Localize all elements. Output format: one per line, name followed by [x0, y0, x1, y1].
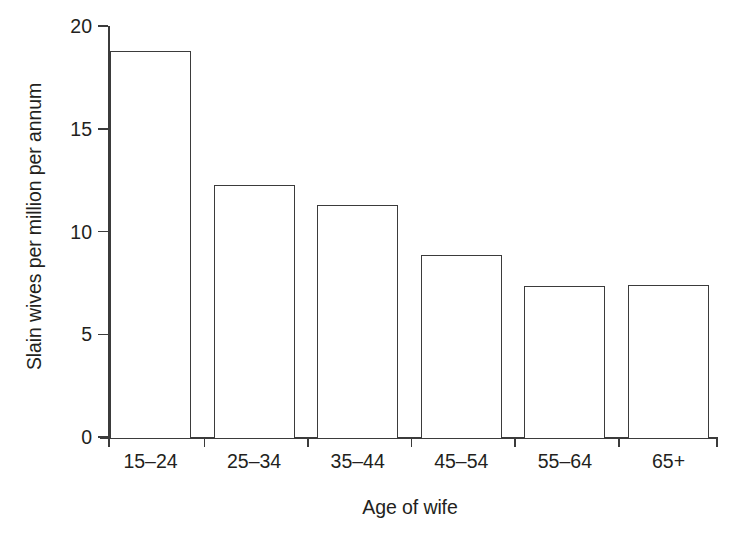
y-axis-tick-mark [98, 231, 108, 233]
y-axis-tick-label: 10 [48, 220, 92, 243]
x-axis-category-label: 55–64 [538, 450, 592, 473]
x-axis-tick-mark [204, 437, 206, 447]
y-axis-tick-mark [98, 25, 108, 27]
y-axis-tick-mark [98, 334, 108, 336]
y-axis-tick-label: 20 [48, 15, 92, 38]
x-axis-category-label: 25–34 [227, 450, 281, 473]
x-axis-category-label: 45–54 [434, 450, 488, 473]
bar-25-34 [214, 185, 295, 438]
x-axis-tick-mark [514, 437, 516, 447]
bar-35-44 [317, 205, 398, 438]
bar-45-54 [421, 255, 502, 438]
y-axis-tick-mark [98, 128, 108, 130]
x-axis-tick-mark [618, 437, 620, 447]
bar-15-24 [110, 51, 191, 438]
y-axis-tick-label: 15 [48, 117, 92, 140]
x-axis-category-label: 65+ [652, 450, 685, 473]
y-axis-tick-label: 5 [48, 323, 92, 346]
x-axis-tick-mark [307, 437, 309, 447]
x-axis-tick-mark [411, 437, 413, 447]
x-axis-category-label: 35–44 [331, 450, 385, 473]
x-axis-line [100, 437, 716, 439]
x-axis-category-label: 15–24 [123, 450, 177, 473]
bar-chart-figure: Slain wives per million per annum 051015… [0, 0, 743, 545]
bar-55-64 [524, 286, 605, 438]
x-axis-tick-mark [108, 437, 110, 447]
bar-65+ [628, 285, 709, 438]
y-axis-tick-mark [98, 436, 108, 438]
x-axis-title: Age of wife [100, 496, 720, 519]
y-axis-tick-label: 0 [48, 426, 92, 449]
x-axis-tick-mark [716, 437, 718, 447]
